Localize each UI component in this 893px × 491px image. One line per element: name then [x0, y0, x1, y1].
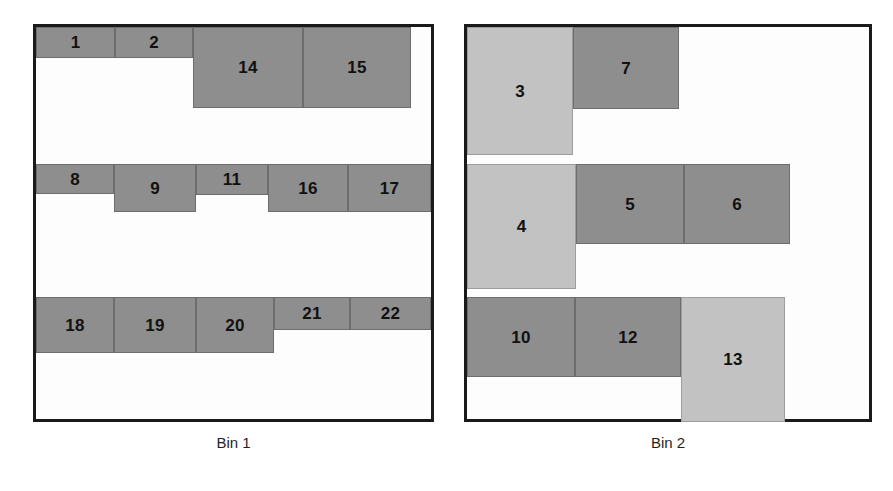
- shelf-2: 89111617: [36, 164, 431, 289]
- packed-item-3: 3: [467, 27, 573, 155]
- packed-item-11: 11: [196, 164, 268, 195]
- bin-label-2: Bin 2: [464, 434, 872, 451]
- packed-item-7: 7: [573, 27, 679, 109]
- packed-item-17: 17: [348, 164, 431, 212]
- packed-item-4: 4: [467, 164, 576, 289]
- packed-item-12: 12: [575, 297, 681, 377]
- packed-item-19: 19: [114, 297, 196, 353]
- bin-container-2: 37456101213: [464, 24, 872, 422]
- packed-item-8: 8: [36, 164, 114, 194]
- packed-item-22: 22: [350, 297, 431, 330]
- packed-item-2: 2: [115, 27, 193, 58]
- packed-item-1: 1: [36, 27, 115, 58]
- shelf-3: 101213: [467, 297, 869, 422]
- packed-item-15: 15: [303, 27, 411, 108]
- shelf-2: 456: [467, 164, 869, 289]
- packed-item-10: 10: [467, 297, 575, 377]
- packed-item-18: 18: [36, 297, 114, 353]
- packed-item-6: 6: [684, 164, 790, 244]
- bin-container-1: 121415891116171819202122: [33, 24, 434, 422]
- packed-item-16: 16: [268, 164, 348, 212]
- packed-item-13: 13: [681, 297, 785, 422]
- packed-item-9: 9: [114, 164, 196, 212]
- shelf-1: 37: [467, 27, 869, 155]
- shelf-1: 121415: [36, 27, 431, 155]
- bin-label-1: Bin 1: [33, 434, 434, 451]
- bin-packing-diagram: 121415891116171819202122Bin 137456101213…: [0, 0, 893, 491]
- packed-item-20: 20: [196, 297, 274, 353]
- packed-item-14: 14: [193, 27, 303, 108]
- packed-item-21: 21: [274, 297, 350, 330]
- packed-item-5: 5: [576, 164, 684, 244]
- shelf-3: 1819202122: [36, 297, 431, 422]
